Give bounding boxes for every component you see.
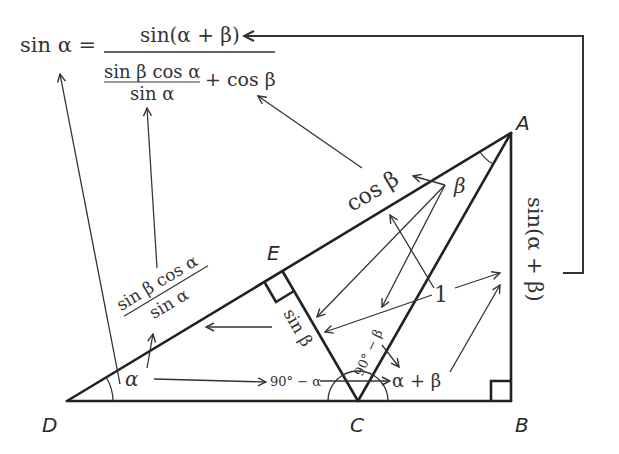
label-beta: β — [453, 174, 466, 198]
vertex-C: C — [350, 413, 364, 437]
formula-inner-denominator: sin α — [130, 83, 174, 104]
segment-DA — [67, 133, 511, 401]
arrow-alpha-plus-beta-to-AB — [450, 285, 500, 372]
vertex-A: A — [514, 111, 530, 135]
vertex-B: B — [515, 413, 529, 437]
label-sin-beta: sin β — [280, 305, 317, 350]
annotation-arrows — [60, 74, 500, 384]
formula-lhs: sin α = — [20, 33, 96, 57]
vertex-E: E — [267, 241, 280, 265]
triangle — [67, 133, 511, 401]
angle-arc-alpha — [106, 377, 113, 401]
arrow-alpha-to-sin-alpha — [60, 74, 120, 384]
label-sin-alpha-plus-beta: sin(α + β) — [523, 197, 547, 302]
formula-numerator: sin(α + β) — [140, 23, 240, 47]
angle-arc-beta — [480, 152, 493, 164]
label-alpha: α — [125, 367, 139, 391]
formula-inner-numerator: sin β cos α — [104, 61, 200, 82]
arrow-one-to-sin-beta — [325, 295, 432, 332]
formula: sin α = sin(α + β) sin β cos α sin α + c… — [20, 23, 276, 104]
label-DE-fraction: sin β cos α sin α — [113, 247, 220, 335]
vertex-D: D — [42, 413, 57, 437]
label-alpha-plus-beta: α + β — [392, 370, 441, 391]
arrow-one-to-cos-beta — [390, 215, 434, 288]
label-90-minus-alpha: 90° − α — [270, 374, 321, 389]
right-angle-B — [491, 381, 511, 401]
label-cos-beta: cos β — [342, 166, 403, 217]
trig-diagram: sin α = sin(α + β) sin β cos α sin α + c… — [0, 0, 619, 454]
arrow-alpha-to-90-minus-alpha — [154, 379, 266, 382]
label-one: 1 — [434, 282, 448, 307]
arrow-DE-to-inner-fraction — [147, 108, 157, 268]
formula-plus-cos-beta: + cos β — [205, 68, 276, 90]
arrow-cos-beta-to-formula — [258, 96, 362, 168]
arrow-one-to-AB — [455, 273, 500, 288]
label-90-minus-beta: 90° − β — [351, 327, 386, 378]
